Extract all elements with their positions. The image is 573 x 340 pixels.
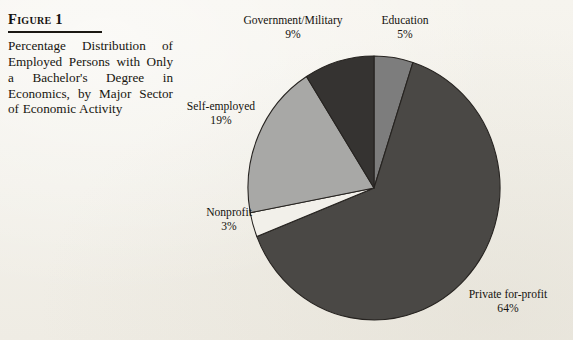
pie-label-value: 19% [160,114,282,128]
pie-label-value: 64% [447,302,569,316]
pie-label-value: 9% [228,28,358,42]
pie-label-nonprofit: Nonprofit 3% [175,206,283,233]
pie-wedge-group [248,56,500,320]
pie-label-name: Nonprofit [175,206,283,220]
figure-container: Figure 1 Percentage Distribution of Empl… [0,0,573,340]
pie-label-value: 5% [350,28,460,42]
pie-label-name: Private for-profit [447,288,569,302]
pie-label-value: 3% [175,220,283,234]
pie-label-self-employed: Self-employed 19% [160,100,282,127]
pie-label-name: Self-employed [160,100,282,114]
pie-label-private-for-profit: Private for-profit 64% [447,288,569,315]
pie-chart: Government/Military 9% Education 5% Self… [0,0,573,340]
pie-label-name: Government/Military [228,14,358,28]
pie-label-education: Education 5% [350,14,460,41]
pie-label-government-military: Government/Military 9% [228,14,358,41]
pie-label-name: Education [350,14,460,28]
